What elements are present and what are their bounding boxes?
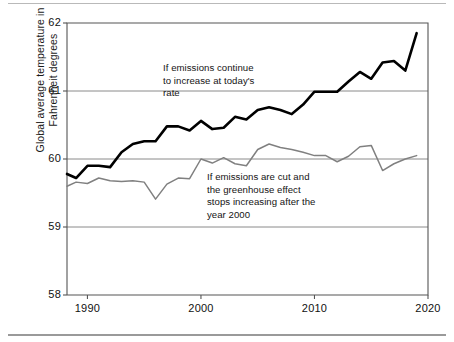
y-tick-label-59: 59	[35, 220, 61, 232]
y-tick-label-62: 62	[35, 16, 61, 28]
y-tick-label-58: 58	[35, 288, 61, 300]
x-tick-label-2010: 2010	[293, 302, 335, 314]
series-line-0	[67, 33, 417, 178]
annotation-lower-scenario: If emissions are cut and the greenhouse …	[207, 171, 316, 221]
annotation-upper-scenario: If emissions continue to increase at tod…	[163, 62, 254, 100]
x-tick-label-2000: 2000	[180, 302, 222, 314]
y-tick-label-61: 61	[35, 84, 61, 96]
x-tick-label-2020: 2020	[407, 302, 449, 314]
y-tick-label-60: 60	[35, 152, 61, 164]
chart-figure: Global average temperature in Fahrenheit…	[0, 0, 454, 342]
x-tick-label-1990: 1990	[66, 302, 108, 314]
